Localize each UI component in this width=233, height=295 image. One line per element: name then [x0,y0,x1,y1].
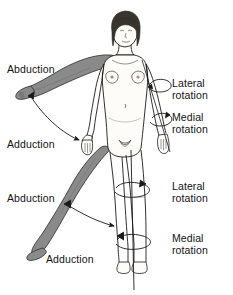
body-figure [82,11,170,274]
arm-adduction-arrow [28,92,79,140]
label-leg-lateral-rotation: Lateral rotation [172,181,208,204]
label-arm-medial-rotation: Medial rotation [172,112,208,135]
arm-rotation-axis [142,60,170,152]
label-leg-adduction: Adduction [46,254,94,266]
label-leg-medial-rotation: Medial rotation [172,233,208,256]
label-leg-abduction: Abduction [7,193,55,205]
anatomy-figure: Abduction Adduction Abduction Adduction … [0,0,233,295]
abducted-arm-shaded [16,55,116,100]
label-arm-abduction: Abduction [7,64,55,76]
arm-medial-rotation-arrow [150,112,172,126]
label-arm-lateral-rotation: Lateral rotation [172,78,208,101]
label-arm-adduction: Adduction [7,139,55,151]
